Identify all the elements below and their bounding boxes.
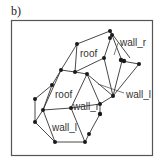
wall-l-pointer (98, 84, 124, 93)
label-wall-r-lower: wall_r (72, 101, 100, 112)
graph-diagram: roof wall_r roof wall_r wall_l wall_l (0, 0, 160, 164)
label-wall-l-lower: wall_l (51, 122, 77, 133)
label-wall-l-right: wall_l (125, 89, 151, 100)
label-wall-r-upper: wall_r (119, 37, 147, 48)
label-roof-lower: roof (55, 89, 72, 100)
label-roof-upper: roof (80, 48, 97, 59)
